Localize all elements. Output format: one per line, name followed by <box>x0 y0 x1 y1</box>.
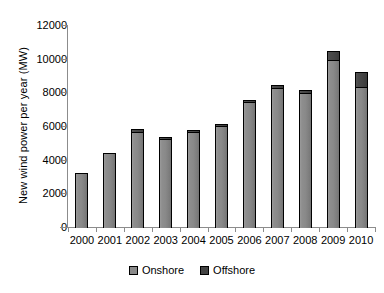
bar-segment-onshore <box>75 173 88 228</box>
bar-segment-onshore <box>243 102 256 228</box>
bar-segment-onshore <box>271 88 284 228</box>
bar-segment-onshore <box>299 93 312 228</box>
bar-group <box>187 130 200 227</box>
chart-legend: OnshoreOffshore <box>0 264 384 276</box>
bar-segment-onshore <box>327 60 340 228</box>
x-axis-label-2010: 2010 <box>349 234 373 246</box>
x-axis-label-2002: 2002 <box>126 234 150 246</box>
y-tick-label: 12000 <box>23 19 67 31</box>
x-axis-label-2004: 2004 <box>181 234 205 246</box>
bar-segment-onshore <box>131 132 144 228</box>
x-tick-mark <box>291 228 292 232</box>
x-axis-label-2003: 2003 <box>153 234 177 246</box>
bar-group <box>215 124 228 228</box>
y-tick-label: 4000 <box>23 154 67 166</box>
bar-segment-onshore <box>103 153 116 228</box>
x-axis-label-2007: 2007 <box>265 234 289 246</box>
x-axis-tick-marks <box>0 228 384 233</box>
bar-group <box>355 72 368 227</box>
x-axis-label-2001: 2001 <box>98 234 122 246</box>
x-tick-mark <box>180 228 181 232</box>
y-tick-label: 8000 <box>23 86 67 98</box>
x-tick-mark <box>68 228 69 232</box>
offshore-swatch-icon <box>200 266 209 275</box>
bar-segment-offshore <box>355 72 368 87</box>
bar-segment-onshore <box>355 87 368 228</box>
bar-segment-onshore <box>187 132 200 228</box>
y-tick-label: 10000 <box>23 53 67 65</box>
y-tick-label: 6000 <box>23 120 67 132</box>
legend-label: Onshore <box>142 264 184 276</box>
x-tick-mark <box>152 228 153 232</box>
x-tick-mark <box>347 228 348 232</box>
bar-group <box>271 85 284 227</box>
wind-power-bar-chart: New wind power per year (MW) 02000400060… <box>0 0 384 293</box>
x-axis-category-labels: 2000200120022003200420052006200720082009… <box>0 234 384 250</box>
x-axis-label-2009: 2009 <box>321 234 345 246</box>
legend-item-onshore[interactable]: Onshore <box>129 264 184 276</box>
x-axis-label-2005: 2005 <box>209 234 233 246</box>
bar-segment-onshore <box>159 139 172 228</box>
x-axis-label-2000: 2000 <box>70 234 94 246</box>
bar-segment-onshore <box>215 126 228 229</box>
x-tick-mark <box>235 228 236 232</box>
x-tick-mark <box>375 228 376 232</box>
y-tick-label: 2000 <box>23 187 67 199</box>
bar-group <box>75 173 88 227</box>
x-axis-label-2008: 2008 <box>293 234 317 246</box>
x-tick-mark <box>319 228 320 232</box>
x-tick-mark <box>124 228 125 232</box>
bar-group <box>299 90 312 227</box>
bar-group <box>131 129 144 227</box>
x-tick-mark <box>263 228 264 232</box>
bar-group <box>243 100 256 227</box>
bar-group <box>103 153 116 227</box>
bar-group <box>327 51 340 227</box>
plot-area <box>68 25 375 227</box>
legend-label: Offshore <box>213 264 255 276</box>
x-tick-mark <box>96 228 97 232</box>
bar-group <box>159 137 172 227</box>
onshore-swatch-icon <box>129 266 138 275</box>
x-axis-label-2006: 2006 <box>237 234 261 246</box>
x-tick-mark <box>208 228 209 232</box>
legend-item-offshore[interactable]: Offshore <box>200 264 255 276</box>
